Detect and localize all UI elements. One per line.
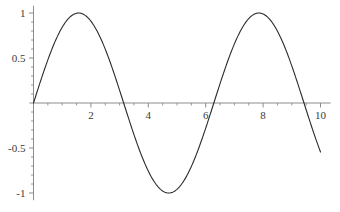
x-axis-tick-label: 10	[315, 109, 327, 121]
sine-plot-figure: 246810 10.5-0.5-1	[0, 0, 340, 212]
y-axis-tick-label: -0.5	[8, 142, 26, 154]
y-axis-tick-label: -1	[16, 187, 25, 199]
x-axis-tick-label: 4	[146, 109, 152, 121]
x-axis-tick-label: 2	[88, 109, 94, 121]
x-axis-tick-label: 6	[203, 109, 209, 121]
plot-background	[0, 0, 340, 212]
y-axis-tick-label: 1	[20, 7, 26, 19]
x-axis-tick-label: 8	[260, 109, 266, 121]
plot-canvas: 246810 10.5-0.5-1	[0, 0, 340, 212]
y-axis-tick-label: 0.5	[12, 52, 26, 64]
